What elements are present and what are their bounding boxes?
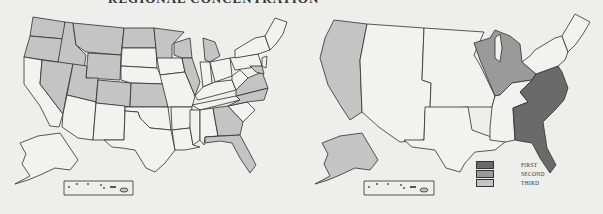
state-sd <box>121 48 157 68</box>
region-far-west <box>320 20 367 120</box>
state-fl <box>205 135 256 173</box>
state-ak <box>15 133 78 184</box>
state-az <box>62 95 96 140</box>
state-wa <box>30 17 65 39</box>
state-ny <box>235 36 270 58</box>
state-in <box>200 62 212 87</box>
state-nd <box>122 28 156 48</box>
state-nm <box>93 103 125 140</box>
region-mid-atlantic <box>522 36 568 74</box>
state-map <box>0 0 300 214</box>
lake-michigan <box>495 34 502 62</box>
state-oh <box>210 58 232 82</box>
state-ne <box>121 66 165 84</box>
legend-swatch-second <box>476 170 494 178</box>
state-mi <box>203 38 220 62</box>
state-nj <box>262 56 267 68</box>
state-ks <box>130 83 168 107</box>
legend-swatch-third <box>476 179 494 187</box>
legend-label: THIRD <box>521 180 539 186</box>
legend-swatch-first <box>476 161 494 169</box>
hawaii-islands <box>368 183 416 189</box>
legend-item-third: THIRD <box>476 179 545 187</box>
legend-item-second: SECOND <box>476 170 545 178</box>
legend-label: FIRST <box>521 162 537 168</box>
state-ar <box>171 107 192 130</box>
state-wy <box>86 53 121 80</box>
legend-label: SECOND <box>521 171 545 177</box>
state-new-england <box>265 18 287 50</box>
state-co <box>96 80 131 107</box>
legend: FIRST SECOND THIRD <box>476 161 545 188</box>
state-wi <box>174 38 192 58</box>
states-group <box>15 17 287 184</box>
region-new-england <box>562 14 590 52</box>
hawaii-islands <box>68 183 116 189</box>
regional-map <box>300 0 603 214</box>
region-mountain <box>360 24 431 142</box>
legend-item-first: FIRST <box>476 161 545 169</box>
state-md <box>250 66 264 74</box>
region-alaska <box>315 133 378 184</box>
